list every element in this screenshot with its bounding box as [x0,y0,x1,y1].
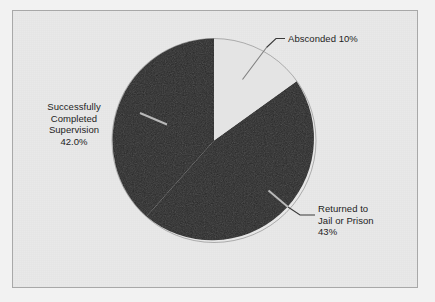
pie-label-returned-line2: Jail or Prison [318,215,418,227]
pie-label-successfully-line2: Completed [26,113,122,125]
pie-label-returned-jail-prison: Returned to Jail or Prison 43% [318,203,418,238]
pie-label-successfully-completed: Successfully Completed Supervision 42.0% [26,101,122,147]
pie-chart [0,0,435,302]
pie-label-returned-line3: 43% [318,226,418,238]
pie-label-successfully-line4: 42.0% [26,136,122,148]
pie-label-returned-line1: Returned to [318,203,418,215]
pie-label-absconded: Absconded 10% [288,33,358,45]
pie-label-absconded-line1: Absconded 10% [288,33,358,45]
screenshot-root: Absconded 10% Successfully Completed Sup… [0,0,435,302]
pie-label-successfully-line3: Supervision [26,124,122,136]
pie-label-successfully-line1: Successfully [26,101,122,113]
